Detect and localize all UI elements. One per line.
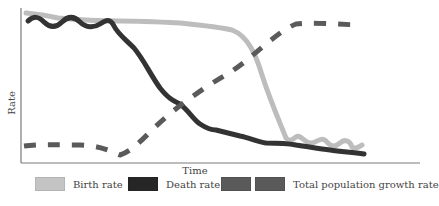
legend-label: Total population growth rate bbox=[293, 179, 439, 190]
population-growth-line bbox=[24, 23, 360, 155]
population-growth-swatch-1 bbox=[221, 177, 251, 191]
birth-rate-swatch bbox=[35, 177, 65, 191]
legend-item-population-growth: Total population growth rate bbox=[221, 177, 439, 191]
legend-label: Birth rate bbox=[73, 179, 123, 190]
chart-legend: Birth rate Death rate Total population g… bbox=[0, 177, 428, 195]
y-axis-label: Rate bbox=[6, 91, 17, 115]
legend-item-birth-rate: Birth rate bbox=[35, 177, 123, 191]
legend-item-death-rate: Death rate bbox=[128, 177, 220, 191]
death-rate-line bbox=[28, 17, 364, 154]
death-rate-swatch bbox=[128, 177, 158, 191]
x-axis-label: Time bbox=[182, 165, 207, 176]
legend-label: Death rate bbox=[166, 179, 220, 190]
birth-rate-line bbox=[26, 13, 362, 148]
population-growth-swatch-2 bbox=[255, 177, 285, 191]
